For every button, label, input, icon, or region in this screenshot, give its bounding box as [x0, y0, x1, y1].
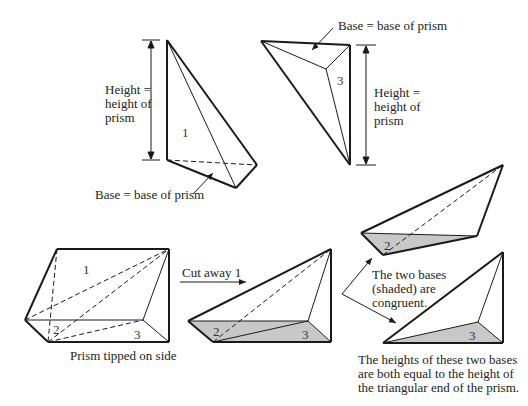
piece-number-2-right: 2 [384, 238, 391, 254]
piece-number-3-prism: 3 [134, 327, 141, 343]
pyramid-3-top [261, 41, 350, 165]
piece-number-2-cut: 2 [213, 324, 220, 340]
pyramid-2-right [361, 165, 503, 255]
congruent-note: The two bases (shaded) are congruent. [372, 268, 446, 310]
piece-number-2-prism: 2 [53, 322, 60, 338]
height-label-right-line3: prism [374, 114, 421, 128]
piece-number-1-prism: 1 [83, 262, 90, 278]
piece-number-3-cut: 3 [302, 327, 309, 343]
base-label-right: Base = base of prism [338, 19, 447, 33]
base-pointer-right [312, 28, 333, 50]
height-label-left-line2: height of [105, 97, 152, 111]
prism-caption: Prism tipped on side [70, 349, 177, 363]
base-label-left: Base = base of prism [95, 188, 204, 202]
height-arrow-right [356, 45, 376, 165]
height-label-right-line2: height of [374, 100, 421, 114]
diagram-canvas [0, 0, 528, 406]
height-label-left: Height = height of prism [105, 83, 152, 125]
piece-number-3-right: 3 [469, 328, 476, 344]
congruent-note-line1: The two bases [372, 268, 446, 282]
piece-number-3-top: 3 [337, 73, 344, 89]
prism-cut [188, 249, 331, 342]
heights-note: The heights of these two bases are both … [358, 353, 519, 395]
heights-note-line2: are both equal to the height of [358, 367, 519, 381]
congruent-note-line3: congruent. [372, 296, 446, 310]
heights-note-line3: the triangular end of the prism. [358, 381, 519, 395]
height-label-right-line1: Height = [374, 86, 421, 100]
cut-away-label: Cut away 1 [182, 266, 241, 280]
pyramid-1-top [167, 40, 257, 188]
prism-tipped [25, 249, 169, 342]
congruent-note-line2: (shaded) are [372, 282, 446, 296]
height-label-right: Height = height of prism [374, 86, 421, 128]
piece-number-1-top: 1 [182, 125, 189, 141]
height-label-left-line3: prism [105, 111, 152, 125]
heights-note-line1: The heights of these two bases [358, 353, 519, 367]
height-label-left-line1: Height = [105, 83, 152, 97]
